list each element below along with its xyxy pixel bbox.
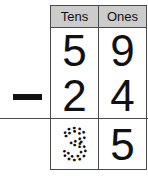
table-row-subtrahend: 2 4 bbox=[51, 73, 147, 119]
cell-minuend-tens: 5 bbox=[51, 28, 99, 74]
digit-subtrahend-tens: 2 bbox=[51, 73, 98, 118]
column-header-ones: Ones bbox=[99, 6, 147, 28]
digit-minuend-ones: 9 bbox=[99, 28, 146, 73]
table-row-minuend: 5 9 bbox=[51, 28, 147, 74]
table-row-answer[interactable]: 3 5 bbox=[51, 119, 147, 170]
place-value-table: Tens Ones 5 9 2 4 bbox=[50, 5, 147, 170]
table-body: 5 9 2 4 3 bbox=[51, 28, 147, 170]
traced-digit-answer-tens-wrap: 3 bbox=[51, 119, 98, 169]
cell-subtrahend-ones: 4 bbox=[99, 73, 147, 119]
dotted-trace-digit-icon: 3 bbox=[51, 119, 98, 169]
digit-minuend-tens: 5 bbox=[51, 28, 98, 73]
digit-subtrahend-ones: 4 bbox=[99, 73, 146, 118]
table-header: Tens Ones bbox=[51, 6, 147, 28]
cell-minuend-ones: 9 bbox=[99, 28, 147, 74]
digit-answer-ones: 5 bbox=[99, 122, 146, 167]
svg-text:3: 3 bbox=[62, 119, 88, 169]
cell-answer-ones[interactable]: 5 bbox=[99, 119, 147, 170]
column-header-tens: Tens bbox=[51, 6, 99, 28]
cell-answer-tens[interactable]: 3 bbox=[51, 119, 99, 170]
cell-subtrahend-tens: 2 bbox=[51, 73, 99, 119]
minus-sign-icon: − bbox=[13, 94, 42, 100]
subtraction-worksheet: − Tens Ones 5 9 2 4 bbox=[0, 0, 148, 181]
table-header-row: Tens Ones bbox=[51, 6, 147, 28]
